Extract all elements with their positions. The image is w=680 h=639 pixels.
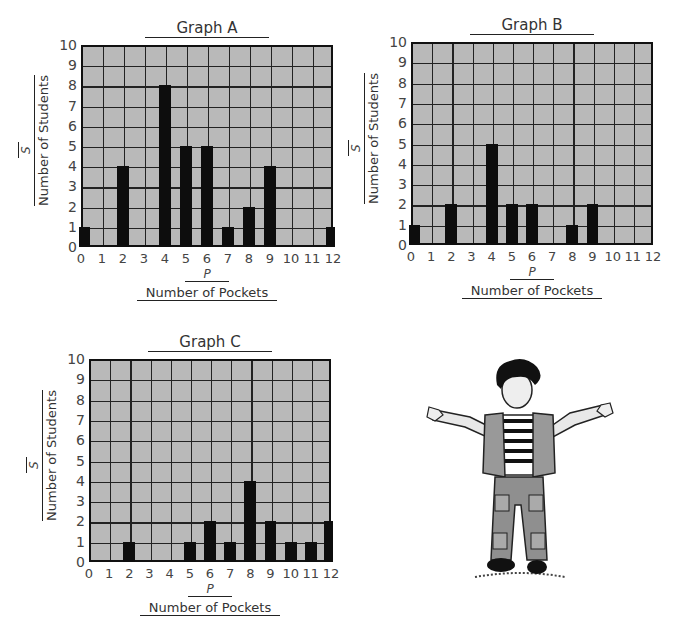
x-tick-label: 7: [219, 567, 241, 581]
gridline-v: [473, 44, 474, 243]
bar-5: [184, 542, 196, 562]
y-tick-label: 9: [63, 372, 85, 386]
chart-title: Graph B: [470, 16, 594, 35]
x-tick-label: 9: [259, 252, 281, 266]
y-tick-label: 10: [63, 352, 85, 366]
bar-8: [566, 225, 578, 245]
gridline-h: [83, 107, 331, 108]
y-tick-label: 2: [63, 514, 85, 528]
y-variable: S: [18, 142, 33, 158]
chart-title: Graph C: [148, 333, 272, 352]
bar-12: [324, 521, 333, 562]
y-tick-label: 4: [385, 157, 407, 171]
y-tick-label: 3: [55, 179, 77, 193]
x-tick-label: 4: [481, 250, 503, 264]
x-tick-label: 12: [642, 250, 664, 264]
y-axis-label-group: Number of Students: [363, 73, 382, 204]
x-tick-label: 11: [622, 250, 644, 264]
bar-7: [224, 542, 236, 562]
x-variable: P: [185, 267, 229, 282]
y-tick-label: 10: [385, 35, 407, 49]
y-axis-label-group: Number of Students: [33, 75, 52, 206]
x-tick-label: 8: [238, 252, 260, 266]
x-variable: P: [188, 582, 232, 597]
boy-illustration: [425, 355, 615, 585]
x-tick-label: 11: [301, 252, 323, 266]
x-tick-label: 10: [602, 250, 624, 264]
y-axis-label: Number of Students: [364, 73, 381, 204]
bar-5: [506, 204, 518, 245]
x-tick-label: 2: [440, 250, 462, 264]
x-tick-label: 3: [133, 252, 155, 266]
y-axis-label: Number of Students: [34, 75, 51, 206]
x-tick-label: 4: [154, 252, 176, 266]
gridline-h: [91, 502, 329, 503]
bar-11: [305, 542, 317, 562]
bar-8: [243, 207, 255, 247]
y-tick-label: 4: [55, 159, 77, 173]
bar-0: [409, 225, 420, 245]
bar-5: [180, 146, 192, 247]
x-tick-label: 9: [260, 567, 282, 581]
bar-2: [117, 166, 129, 247]
y-tick-label: 10: [55, 38, 77, 52]
gridline-v: [130, 361, 131, 560]
gridline-h: [91, 401, 329, 402]
gridline-v: [313, 47, 314, 245]
x-tick-label: 5: [501, 250, 523, 264]
x-tick-label: 6: [196, 252, 218, 266]
bar-6: [201, 146, 213, 247]
gridline-h: [83, 127, 331, 128]
x-tick-label: 10: [280, 567, 302, 581]
x-variable: P: [510, 265, 554, 280]
gridline-v: [292, 47, 293, 245]
bar-0: [79, 227, 90, 247]
x-tick-label: 6: [199, 567, 221, 581]
gridline-v: [231, 361, 232, 560]
x-tick-label: 3: [461, 250, 483, 264]
y-variable-group: S: [23, 457, 42, 473]
gridline-v: [432, 44, 433, 243]
gridline-h: [413, 104, 651, 105]
x-tick-label: 8: [561, 250, 583, 264]
gridline-h: [413, 185, 651, 186]
x-tick-label: 5: [175, 252, 197, 266]
y-tick-label: 7: [55, 99, 77, 113]
bar-8: [244, 481, 256, 562]
y-tick-label: 8: [63, 393, 85, 407]
x-tick-label: 11: [300, 567, 322, 581]
x-tick-label: 7: [541, 250, 563, 264]
y-variable: S: [348, 140, 363, 156]
gridline-h: [413, 84, 651, 85]
x-tick-label: 7: [217, 252, 239, 266]
x-tick-label: 8: [239, 567, 261, 581]
bar-12: [326, 227, 335, 247]
bar-9: [264, 166, 276, 247]
x-tick-label: 0: [78, 567, 100, 581]
gridline-v: [229, 47, 230, 245]
gridline-h: [413, 145, 651, 146]
gridline-h: [413, 124, 651, 125]
gridline-v: [103, 47, 104, 245]
x-tick-label: 2: [118, 567, 140, 581]
x-tick-label: 6: [521, 250, 543, 264]
gridline-h: [91, 482, 329, 483]
gridline-h: [413, 165, 651, 166]
y-tick-label: 2: [55, 200, 77, 214]
x-tick-label: 4: [159, 567, 181, 581]
y-tick-label: 6: [385, 116, 407, 130]
y-tick-label: 1: [55, 220, 77, 234]
y-variable-group: S: [345, 140, 364, 156]
x-axis-label: Number of Pockets: [137, 285, 277, 301]
gridline-v: [292, 361, 293, 560]
y-tick-label: 8: [385, 76, 407, 90]
y-tick-label: 5: [385, 137, 407, 151]
gridline-h: [83, 66, 331, 67]
x-tick-label: 1: [420, 250, 442, 264]
y-tick-label: 6: [55, 119, 77, 133]
y-axis-label: Number of Students: [42, 390, 59, 521]
bar-2: [445, 204, 457, 245]
y-tick-label: 5: [55, 139, 77, 153]
x-tick-label: 0: [70, 252, 92, 266]
gridline-v: [191, 361, 192, 560]
